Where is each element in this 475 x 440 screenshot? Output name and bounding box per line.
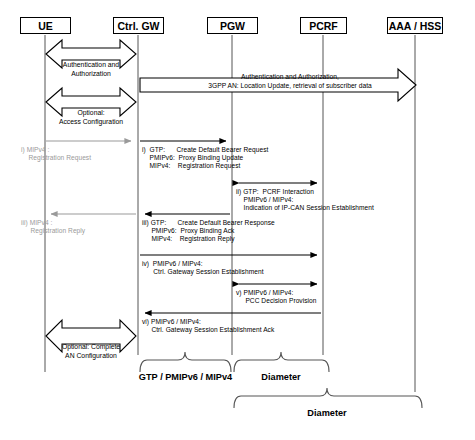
- brace-label-gtp-pmipv6-mipv4: GTP / PMIPv6 / MIPv4: [118, 372, 253, 382]
- label-optional-complete-an-configuration-line1: Optional: Complete: [51, 343, 131, 352]
- label-authentication-authorization-line2: Authorization: [56, 70, 126, 79]
- label-core-authentication-line2: 3GPP AN: Location Update, retrieval of s…: [150, 82, 430, 91]
- label-optional-access-configuration-line2: Access Configuration: [51, 118, 131, 127]
- actor-label-pcrf: PCRF: [309, 20, 338, 32]
- label-msg-ii-line1: ii) GTP: PCRF Interaction: [236, 188, 314, 196]
- label-msg-i-line1: i) GTP: Create Default Bearer Request: [142, 146, 268, 154]
- label-msg-v-line1: v) PMIPv6 / MIPv4:: [236, 289, 293, 297]
- label-msg-iv-line2: Ctrl. Gateway Session Establishment: [142, 268, 264, 276]
- brace-gtp-pmipv6-mipv4: [140, 352, 231, 372]
- label-msg-iii-gray-line1: iii) MIPv4 :: [21, 219, 52, 227]
- label-msg-v-line2: PCC Decision Provision: [236, 297, 317, 305]
- label-msg-iii-line1: iii) GTP: Create Default Bearer Response: [142, 219, 275, 227]
- label-msg-i-gray-line2: Registration Request: [21, 154, 91, 162]
- label-optional-access-configuration-line1: Optional:: [56, 109, 126, 118]
- label-optional-complete-an-configuration-line2: AN Configuration: [51, 352, 131, 361]
- label-msg-iii-gray-line2: Registration Reply: [21, 227, 85, 235]
- actor-box-pgw[interactable]: PGW: [207, 17, 258, 34]
- label-msg-iii-line2: PMIPv6: Proxy Binding Ack: [142, 227, 234, 235]
- label-msg-i-line3: MIPv4: Registration Request: [142, 162, 240, 170]
- label-msg-vi-line2: Ctrl. Gateway Session Establishment Ack: [142, 326, 274, 334]
- actor-label-pgw: PGW: [220, 20, 245, 32]
- label-msg-vi-line1: vi) PMIPv6 / MIPv4:: [142, 318, 201, 326]
- label-msg-i-line2: PMIPv6: Proxy Binding Update: [142, 154, 243, 162]
- actor-label-ctrl-gw: Ctrl. GW: [118, 20, 160, 32]
- actor-box-ctrl-gw[interactable]: Ctrl. GW: [113, 17, 164, 34]
- label-core-authentication-line1: Authentication and Authorization,: [165, 73, 415, 82]
- brace-label-diameter-pgw-aaa: Diameter: [294, 408, 360, 418]
- actor-box-aaa-hss[interactable]: AAA / HSS: [387, 17, 443, 34]
- label-msg-ii-line2: PMIPv6 / MIPv4:: [236, 196, 293, 204]
- actor-box-ue[interactable]: UE: [20, 17, 71, 34]
- label-msg-iv-line1: iv) PMIPv6 / MIPv4:: [142, 260, 203, 268]
- actor-label-aaa-hss: AAA / HSS: [389, 20, 442, 32]
- actor-box-pcrf[interactable]: PCRF: [300, 17, 347, 34]
- label-authentication-authorization-line1: Authentication and: [56, 61, 126, 70]
- actor-label-ue: UE: [38, 20, 53, 32]
- brace-diameter-pgw-aaa: [234, 388, 422, 408]
- label-msg-iii-line3: MIPv4: Registration Reply: [142, 235, 235, 243]
- brace-label-diameter-pgw-pcrf: Diameter: [248, 372, 314, 382]
- label-msg-ii-line3: Indication of IP-CAN Session Establishme…: [236, 204, 374, 212]
- label-msg-i-gray: i) MIPv4 :: [21, 146, 49, 154]
- brace-diameter-pgw-pcrf: [234, 352, 329, 372]
